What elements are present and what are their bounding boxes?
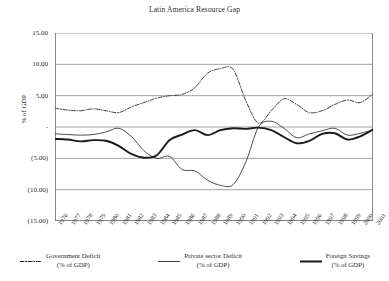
x-tick-label: 2001 (374, 212, 387, 226)
series-line-2 (55, 128, 373, 158)
legend-label: Government Deficit(% of GDP) (46, 251, 101, 269)
chart-title: Latin America Resource Gap (0, 5, 389, 14)
y-tick-label: (10.00) (0, 186, 48, 194)
y-tick-label: - (0, 123, 48, 131)
legend-item-1: Private sector Deficit(% of GDP) (158, 251, 242, 269)
legend-item-0: Government Deficit(% of GDP) (20, 251, 101, 269)
series-line-1 (55, 121, 373, 187)
y-tick-label: (15.00) (0, 217, 48, 225)
chart-canvas (55, 33, 373, 221)
legend-swatch-icon (20, 252, 42, 261)
chart-legend: Government Deficit(% of GDP)Private sect… (20, 251, 370, 277)
legend-sublabel: (% of GDP) (326, 260, 370, 269)
legend-item-2: Foreign Savings(% of GDP) (300, 251, 370, 269)
y-tick-label: 15.00 (0, 29, 48, 37)
legend-swatch-icon (158, 252, 180, 261)
legend-swatch-icon (300, 252, 322, 261)
legend-sublabel: (% of GDP) (46, 260, 101, 269)
series-line-0 (55, 67, 373, 124)
legend-label: Foreign Savings(% of GDP) (326, 251, 370, 269)
y-tick-label: (5.00) (0, 154, 48, 162)
plot-area (55, 33, 373, 221)
chart-figure: Latin America Resource Gap % of GDP 15.0… (0, 0, 389, 281)
y-tick-label: 10.00 (0, 60, 48, 68)
y-axis-tick-labels: 15.0010.005.00-(5.00)(10.00)(15.00) (0, 26, 52, 228)
legend-sublabel: (% of GDP) (184, 260, 242, 269)
legend-label: Private sector Deficit(% of GDP) (184, 251, 242, 269)
y-tick-label: 5.00 (0, 92, 48, 100)
